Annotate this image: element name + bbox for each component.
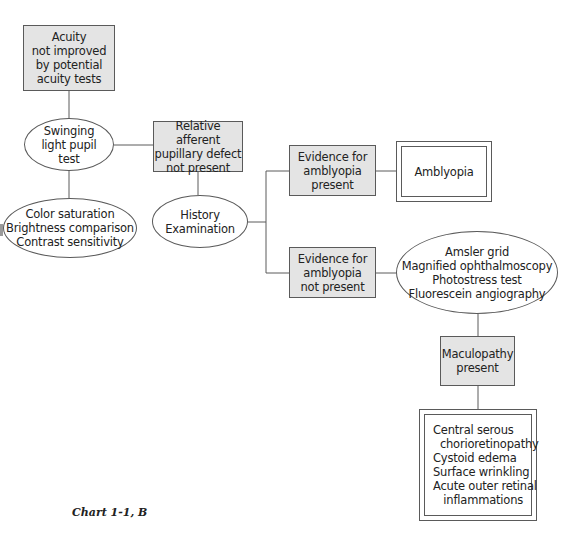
node-line: chorioretinopathy (433, 437, 539, 451)
node-line: amblyopia (298, 164, 367, 178)
acuity-not-improved-box: Acuity not improved by potential acuity … (23, 25, 115, 91)
node-line: not improved (32, 44, 106, 58)
node-line: light pupil (41, 138, 96, 152)
node-line: History (165, 208, 235, 222)
node-line: Fluorescein angiography (402, 287, 553, 301)
node-line: Photostress test (402, 273, 553, 287)
node-line: Contrast sensitivity (6, 235, 134, 249)
node-line: Amblyopia (414, 165, 473, 179)
node-line: Acute outer retinal (433, 479, 539, 493)
node-line: Color saturation (6, 207, 134, 221)
node-line: Examination (165, 222, 235, 236)
macular-tests-ellipse: Amsler grid Magnified ophthalmoscopy Pho… (396, 231, 558, 314)
flowchart-canvas: Acuity not improved by potential acuity … (0, 0, 578, 553)
chart-caption: Chart 1-1, B (72, 506, 147, 519)
node-line: Brightness comparison (6, 221, 134, 235)
node-line: Cystoid edema (433, 451, 539, 465)
history-examination-ellipse: History Examination (152, 195, 248, 248)
node-line: Magnified ophthalmoscopy (402, 259, 553, 273)
node-line: Central serous (433, 423, 539, 437)
node-line: Acuity (32, 30, 106, 44)
node-line: acuity tests (32, 72, 106, 86)
node-line: Relative afferent (154, 119, 242, 147)
node-line: present (298, 178, 367, 192)
evidence-amblyopia-present-box: Evidence for amblyopia present (289, 145, 376, 196)
node-line: Evidence for (298, 252, 367, 266)
node-line: Swinging (41, 124, 96, 138)
node-line: amblyopia (298, 266, 367, 280)
node-line: by potential (32, 58, 106, 72)
amblyopia-result-box: Amblyopia (396, 141, 492, 202)
node-line: Surface wrinkling (433, 465, 539, 479)
color-brightness-contrast-ellipse: Color saturation Brightness comparison C… (3, 198, 137, 258)
maculopathy-present-box: Maculopathy present (440, 336, 515, 386)
node-line: inflammations (433, 493, 539, 507)
node-line: Maculopathy (442, 347, 514, 361)
node-line: not present (298, 280, 367, 294)
swinging-light-test-ellipse: Swinging light pupil test (24, 118, 114, 171)
node-line: Amsler grid (402, 245, 553, 259)
evidence-amblyopia-not-present-box: Evidence for amblyopia not present (289, 247, 376, 298)
node-line: Evidence for (298, 150, 367, 164)
maculopathy-conditions-box: Central serous chorioretinopathy Cystoid… (419, 409, 537, 521)
rapd-not-present-box: Relative afferent pupillary defect not p… (153, 121, 243, 172)
node-line: test (41, 152, 96, 166)
scan-artifact (0, 224, 3, 236)
node-line: not present (154, 161, 242, 175)
node-line: present (442, 361, 514, 375)
node-line: pupillary defect (154, 147, 242, 161)
